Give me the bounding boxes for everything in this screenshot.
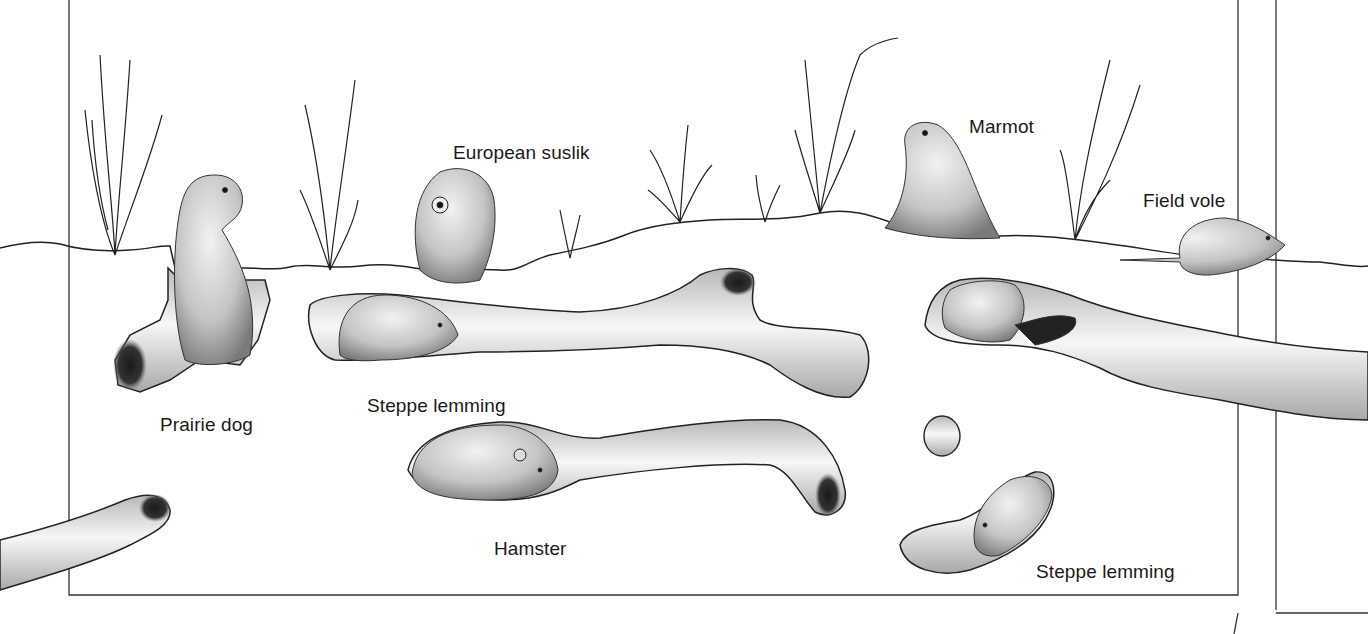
label-field-vole: Field vole [1143, 190, 1225, 212]
label-hamster: Hamster [494, 538, 567, 560]
label-marmot: Marmot [969, 116, 1034, 138]
european-suslik-figure [415, 169, 495, 283]
hamster-figure [412, 425, 558, 500]
field-vole-figure [1120, 218, 1285, 275]
marmot-figure [885, 122, 1000, 238]
prairie-dog-figure [175, 175, 253, 365]
label-prairie-dog: Prairie dog [160, 414, 253, 436]
label-steppe-lemming-upper: Steppe lemming [367, 395, 506, 417]
burrow-illustration [0, 0, 1368, 634]
steppe-lemming-figure-lower [974, 476, 1052, 556]
label-steppe-lemming-lower: Steppe lemming [1036, 561, 1175, 583]
small-burrow-hole [924, 416, 960, 456]
label-european-suslik: European suslik [453, 142, 590, 164]
